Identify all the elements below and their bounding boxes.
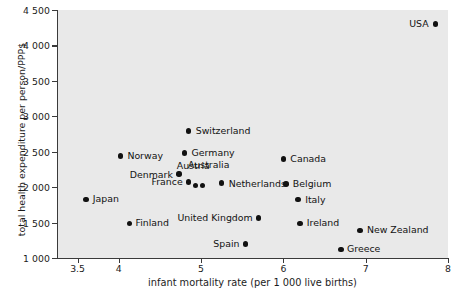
data-point-marker[interactable] bbox=[118, 153, 123, 158]
y-tick-mark bbox=[52, 116, 57, 117]
x-tick-label: 3.5 bbox=[70, 263, 85, 274]
y-tick-mark bbox=[52, 223, 57, 224]
data-point-label: Germany bbox=[192, 148, 235, 157]
y-axis-line bbox=[57, 10, 58, 259]
data-point-marker[interactable] bbox=[283, 181, 288, 186]
data-point-label: Finland bbox=[135, 219, 169, 228]
x-tick-label: 8 bbox=[445, 263, 451, 274]
y-tick-label: 4 000 bbox=[4, 40, 50, 51]
y-tick-label: 1 000 bbox=[4, 253, 50, 264]
data-point-marker[interactable] bbox=[127, 221, 132, 226]
x-tick-mark bbox=[448, 258, 449, 263]
data-point-label: Canada bbox=[290, 154, 326, 163]
data-point-marker[interactable] bbox=[182, 150, 187, 155]
data-point-marker[interactable] bbox=[338, 247, 343, 252]
data-point-label: Switzerland bbox=[196, 126, 251, 135]
y-tick-label: 3 500 bbox=[4, 76, 50, 87]
data-point-label: Belgium bbox=[293, 179, 331, 188]
data-point-label: Spain bbox=[213, 239, 239, 248]
data-point-label: Australia bbox=[188, 160, 229, 169]
x-axis-line bbox=[57, 258, 448, 259]
data-point-marker[interactable] bbox=[295, 197, 300, 202]
y-tick-mark bbox=[52, 258, 57, 259]
y-tick-label: 3 000 bbox=[4, 111, 50, 122]
data-point-label: Japan bbox=[93, 194, 119, 203]
data-point-marker[interactable] bbox=[219, 180, 224, 185]
y-axis-title: total health expenditure per person/PPP$ bbox=[16, 15, 27, 265]
y-tick-label: 2 500 bbox=[4, 147, 50, 158]
data-point-label: New Zealand bbox=[367, 226, 429, 235]
x-tick-label: 4 bbox=[116, 263, 122, 274]
data-point-label: Netherlands bbox=[229, 179, 286, 188]
y-tick-label: 4 500 bbox=[4, 5, 50, 16]
x-tick-label: 6 bbox=[280, 263, 286, 274]
x-tick-mark bbox=[78, 258, 79, 263]
y-tick-mark bbox=[52, 187, 57, 188]
data-point-label: United Kingdom bbox=[177, 213, 252, 222]
data-point-label: Italy bbox=[305, 195, 325, 204]
data-point-marker[interactable] bbox=[281, 156, 286, 161]
x-tick-mark bbox=[283, 258, 284, 263]
data-point-label: USA bbox=[409, 19, 428, 28]
y-tick-mark bbox=[52, 45, 57, 46]
x-tick-mark bbox=[119, 258, 120, 263]
x-tick-mark bbox=[201, 258, 202, 263]
scatter-chart: 1 0001 5002 0002 5003 0003 5004 0004 500… bbox=[0, 0, 453, 296]
y-tick-label: 1 500 bbox=[4, 218, 50, 229]
data-point-marker[interactable] bbox=[243, 241, 248, 246]
y-tick-mark bbox=[52, 81, 57, 82]
y-tick-mark bbox=[52, 10, 57, 11]
x-tick-label: 5 bbox=[198, 263, 204, 274]
y-tick-mark bbox=[52, 152, 57, 153]
data-point-marker[interactable] bbox=[83, 197, 88, 202]
data-point-label: Ireland bbox=[307, 219, 339, 228]
data-point-label: Norway bbox=[127, 151, 163, 160]
data-point-marker[interactable] bbox=[256, 215, 261, 220]
y-tick-label: 2 000 bbox=[4, 182, 50, 193]
x-tick-label: 7 bbox=[363, 263, 369, 274]
data-point-label: France bbox=[152, 177, 183, 186]
data-point-label: Greece bbox=[347, 245, 380, 254]
x-tick-mark bbox=[366, 258, 367, 263]
data-point-marker[interactable] bbox=[297, 221, 302, 226]
x-axis-title: infant mortality rate (per 1 000 live bi… bbox=[57, 277, 448, 288]
data-point-marker[interactable] bbox=[357, 228, 362, 233]
